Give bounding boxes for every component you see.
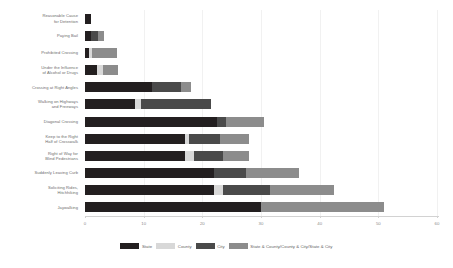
y-axis-label: Walking on Highways and Freeways xyxy=(0,99,78,109)
bar-segment[interactable] xyxy=(261,202,384,212)
x-axis-tick xyxy=(437,216,438,218)
x-axis-tick-label: 50 xyxy=(376,221,381,226)
chart-legend: StateCountyCityState & County/County & C… xyxy=(0,243,453,249)
x-axis-tick-label: 20 xyxy=(200,221,205,226)
x-axis-tick-label: 60 xyxy=(435,221,440,226)
y-axis-label: Soliciting Rides, Hitchhiking xyxy=(0,185,78,195)
x-axis-tick xyxy=(144,216,145,218)
gridline xyxy=(437,10,438,216)
bar-segment[interactable] xyxy=(217,117,226,127)
bar-segment[interactable] xyxy=(194,151,223,161)
y-axis-label-wrap: Paying Bail xyxy=(0,33,78,38)
bar-segment[interactable] xyxy=(270,185,335,195)
y-axis-label: Suddenly Leaving Curb xyxy=(0,170,78,175)
bar-segment[interactable] xyxy=(85,134,185,144)
bar-segment[interactable] xyxy=(85,82,152,92)
y-axis-label: Prohibited Crossing xyxy=(0,50,78,55)
bar-segment[interactable] xyxy=(214,185,223,195)
bar-segment[interactable] xyxy=(92,48,117,58)
plot-area xyxy=(85,10,437,216)
x-axis-tick-label: 30 xyxy=(259,221,264,226)
legend-swatch xyxy=(156,243,175,249)
bar-segment[interactable] xyxy=(85,151,185,161)
bar-segment[interactable] xyxy=(246,168,299,178)
legend-item[interactable]: County xyxy=(156,243,191,249)
bar-segment[interactable] xyxy=(103,65,119,75)
y-axis-label-wrap: Suddenly Leaving Curb xyxy=(0,170,78,175)
bar-segment[interactable] xyxy=(141,99,211,109)
bar-segment[interactable] xyxy=(185,151,194,161)
bar-segment[interactable] xyxy=(85,202,261,212)
bar-segment[interactable] xyxy=(220,134,249,144)
y-axis-label-wrap: Prohibited Crossing xyxy=(0,50,78,55)
x-axis-tick-label: 10 xyxy=(141,221,146,226)
y-axis-label-wrap: Walking on Highways and Freeways xyxy=(0,99,78,109)
x-axis-tick xyxy=(85,216,86,218)
legend-item[interactable]: City xyxy=(196,243,225,249)
bar-segment[interactable] xyxy=(223,185,270,195)
legend-item[interactable]: State & County/County & City/State & Cit… xyxy=(229,243,333,249)
y-axis-label-wrap: Crossing at Right Angles xyxy=(0,85,78,90)
x-axis-tick xyxy=(320,216,321,218)
legend-swatch xyxy=(120,243,139,249)
y-axis-label: Keep to the Right Half of Crosswalk xyxy=(0,134,78,144)
y-axis-label: Jaywalking xyxy=(0,205,78,210)
x-axis-tick-label: 40 xyxy=(317,221,322,226)
y-axis-label-wrap: Right of Way for Blind Pedestrians xyxy=(0,151,78,161)
bar-segment[interactable] xyxy=(223,151,249,161)
legend-label: County xyxy=(178,244,192,249)
bar-segment[interactable] xyxy=(152,82,180,92)
y-axis-label-wrap: Soliciting Rides, Hitchhiking xyxy=(0,185,78,195)
bar-segment[interactable] xyxy=(85,99,135,109)
x-axis-tick xyxy=(378,216,379,218)
bar-segment[interactable] xyxy=(181,82,191,92)
bar-segment[interactable] xyxy=(85,185,214,195)
x-axis-tick xyxy=(261,216,262,218)
legend-label: State xyxy=(142,244,152,249)
bar-segment[interactable] xyxy=(214,168,246,178)
y-axis-label: Crossing at Right Angles xyxy=(0,85,78,90)
legend-item[interactable]: State xyxy=(120,243,152,249)
y-axis-label: Under the Influence of Alcohol or Drugs xyxy=(0,65,78,75)
bar-segment[interactable] xyxy=(85,117,217,127)
y-axis-label: Paying Bail xyxy=(0,33,78,38)
y-axis-label-wrap: Jaywalking xyxy=(0,205,78,210)
y-axis-label: Reasonable Cause for Detention xyxy=(0,13,78,23)
legend-swatch xyxy=(196,243,215,249)
bar-segment[interactable] xyxy=(91,31,98,41)
legend-label: City xyxy=(217,244,225,249)
y-axis-label: Diagonal Crossing xyxy=(0,119,78,124)
legend-swatch xyxy=(229,243,248,249)
bar-segment[interactable] xyxy=(189,134,220,144)
x-axis-line xyxy=(85,216,439,217)
bar-segment[interactable] xyxy=(85,65,97,75)
bar-segment[interactable] xyxy=(85,14,91,24)
y-axis-label-wrap: Keep to the Right Half of Crosswalk xyxy=(0,134,78,144)
bar-segment[interactable] xyxy=(98,31,104,41)
y-axis-label-wrap: Reasonable Cause for Detention xyxy=(0,13,78,23)
x-axis-tick xyxy=(202,216,203,218)
y-axis-label-wrap: Diagonal Crossing xyxy=(0,119,78,124)
bar-segment[interactable] xyxy=(85,168,214,178)
legend-label: State & County/County & City/State & Cit… xyxy=(250,244,332,249)
bar-segment[interactable] xyxy=(226,117,264,127)
y-axis-label: Right of Way for Blind Pedestrians xyxy=(0,151,78,161)
x-axis-tick-label: 0 xyxy=(84,221,86,226)
y-axis-label-wrap: Under the Influence of Alcohol or Drugs xyxy=(0,65,78,75)
stacked-bar-chart: Reasonable Cause for DetentionPaying Bai… xyxy=(0,0,453,268)
